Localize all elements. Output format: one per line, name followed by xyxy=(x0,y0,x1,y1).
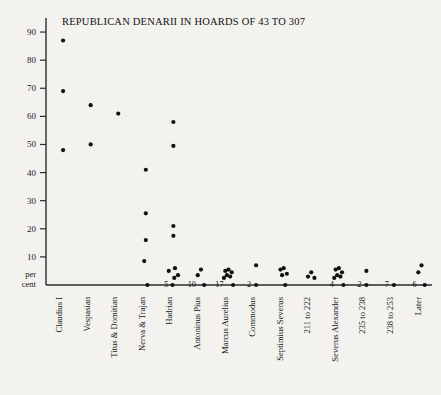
data-point xyxy=(283,283,287,287)
data-point xyxy=(61,89,65,93)
baseline-count-labels: 5101724276 xyxy=(164,280,416,289)
data-point xyxy=(144,168,148,172)
chart-title: REPUBLICAN DENARII IN HOARDS OF 43 TO 30… xyxy=(62,16,305,27)
data-point xyxy=(171,224,175,228)
data-point xyxy=(423,283,427,287)
y-tick-label: 80 xyxy=(27,55,37,65)
data-point xyxy=(144,238,148,242)
x-axis-category-label: Antoninus Pius xyxy=(192,296,202,349)
data-point xyxy=(364,283,368,287)
x-axis-category-label: 235 to 238 xyxy=(357,297,367,334)
data-point xyxy=(89,103,93,107)
data-point xyxy=(223,269,227,273)
x-axis-category-label: 238 to 253 xyxy=(385,297,395,334)
x-axis-category-label: Marcus Aurelius xyxy=(220,296,230,354)
data-point xyxy=(176,273,180,277)
y-axis-unit-word: per xyxy=(25,269,36,279)
data-point xyxy=(228,274,232,278)
y-axis-unit-label: percent xyxy=(22,269,37,289)
y-tick-label: 50 xyxy=(27,139,37,149)
x-axis-category-label: Septimius Severus xyxy=(275,296,285,360)
x-axis-category-label: Commodus xyxy=(247,296,257,336)
y-tick-label: 30 xyxy=(27,196,37,206)
baseline-count-label: 4 xyxy=(330,280,334,289)
data-point xyxy=(416,270,420,274)
x-axis-category-label: Vespasian xyxy=(82,296,92,331)
x-axis-category-label: Claudius I xyxy=(54,297,64,333)
data-point xyxy=(171,234,175,238)
data-point xyxy=(309,270,313,274)
data-point xyxy=(254,283,258,287)
baseline-count-label: 7 xyxy=(385,280,389,289)
data-point xyxy=(173,266,177,270)
data-point xyxy=(61,38,65,42)
data-point xyxy=(202,283,206,287)
baseline-count-label: 2 xyxy=(357,280,361,289)
republican-denarii-scatter-chart: REPUBLICAN DENARII IN HOARDS OF 43 TO 30… xyxy=(0,0,441,395)
data-point xyxy=(334,267,338,271)
x-axis-category-label: Hadrian xyxy=(164,296,174,324)
data-point xyxy=(231,283,235,287)
data-point xyxy=(116,111,120,115)
y-axis-unit-word: cent xyxy=(22,279,37,289)
data-point xyxy=(171,144,175,148)
data-point xyxy=(172,276,176,280)
data-point xyxy=(392,283,396,287)
data-point xyxy=(199,267,203,271)
x-axis-category-label: Nerva & Trajan xyxy=(137,296,147,351)
x-axis-category-label: Titus & Domitian xyxy=(109,296,119,358)
data-point xyxy=(419,263,423,267)
x-axis-category-label: Severus Alexander xyxy=(330,297,340,362)
baseline-count-label: 10 xyxy=(188,280,196,289)
data-point xyxy=(89,142,93,146)
data-point xyxy=(285,272,289,276)
data-points-group xyxy=(61,38,427,287)
y-tick-label: 40 xyxy=(27,168,37,178)
y-tick-label: 10 xyxy=(27,252,37,262)
data-point xyxy=(170,283,174,287)
baseline-count-label: 2 xyxy=(247,280,251,289)
data-point xyxy=(364,269,368,273)
data-point xyxy=(312,276,316,280)
data-point xyxy=(144,211,148,215)
data-point xyxy=(341,283,345,287)
baseline-count-label: 5 xyxy=(164,280,168,289)
data-point xyxy=(306,274,310,278)
data-point xyxy=(167,269,171,273)
y-tick-label: 70 xyxy=(27,83,37,93)
data-point xyxy=(142,259,146,263)
baseline-count-label: 17 xyxy=(215,280,223,289)
y-tick-label: 90 xyxy=(27,27,37,37)
y-axis-ticks: 102030405060708090 xyxy=(27,27,46,262)
axes-group xyxy=(46,18,432,285)
data-point xyxy=(196,273,200,277)
chart-title-group: REPUBLICAN DENARII IN HOARDS OF 43 TO 30… xyxy=(62,16,305,27)
data-point xyxy=(61,148,65,152)
baseline-count-label: 6 xyxy=(412,280,416,289)
x-axis-category-labels: Claudius IVespasianTitus & DomitianNerva… xyxy=(54,296,422,361)
data-point xyxy=(145,283,149,287)
data-point xyxy=(280,273,284,277)
y-tick-label: 60 xyxy=(27,111,37,121)
y-tick-label: 20 xyxy=(27,224,37,234)
data-point xyxy=(338,274,342,278)
data-point xyxy=(230,270,234,274)
data-point xyxy=(278,267,282,271)
x-axis-category-label: 211 to 222 xyxy=(302,297,312,333)
data-point xyxy=(254,263,258,267)
x-axis-category-label: Later xyxy=(413,297,423,315)
data-point xyxy=(340,270,344,274)
data-point xyxy=(171,120,175,124)
chart-container: REPUBLICAN DENARII IN HOARDS OF 43 TO 30… xyxy=(0,0,441,395)
